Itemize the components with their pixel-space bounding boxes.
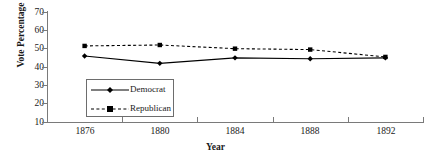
data-point-democrat xyxy=(308,56,313,61)
data-point-republican xyxy=(308,47,312,51)
x-tick-label: 1892 xyxy=(361,126,411,136)
data-point-democrat xyxy=(157,61,162,66)
x-tick-label: 1880 xyxy=(135,126,185,136)
data-point-democrat xyxy=(82,53,87,58)
data-point-republican xyxy=(233,46,237,50)
legend-line-solid-diamond-icon xyxy=(90,80,130,99)
legend-item-democrat: Democrat xyxy=(87,80,175,99)
x-tick-label: 1884 xyxy=(210,126,260,136)
x-tick-label: 1876 xyxy=(60,126,110,136)
series-layer xyxy=(0,0,431,165)
legend-item-republican: Republican xyxy=(87,99,175,118)
x-axis-title: Year xyxy=(0,142,431,152)
line-chart: Vote Percentage 70 60 50 40 30 20 10 xyxy=(0,0,431,165)
legend-label: Republican xyxy=(130,103,171,113)
legend-label: Democrat xyxy=(130,84,165,94)
series-democrat xyxy=(82,53,388,66)
data-point-republican xyxy=(158,43,162,47)
data-point-republican xyxy=(82,44,86,48)
x-tick-label: 1888 xyxy=(285,126,335,136)
legend-line-dashed-square-icon xyxy=(90,99,130,118)
data-point-democrat xyxy=(232,55,237,60)
chart-legend: Democrat Republican xyxy=(86,79,174,117)
